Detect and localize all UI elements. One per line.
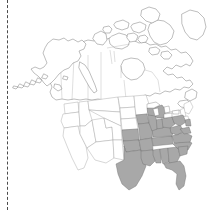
state-oregon <box>61 112 80 128</box>
state-north-dakota <box>118 96 135 108</box>
state-south-dakota <box>120 107 136 119</box>
left-dashed-rule <box>7 0 8 210</box>
state-new-jersey <box>185 119 191 126</box>
state-iowa <box>136 114 149 124</box>
lake-erie <box>164 113 172 118</box>
state-minnesota <box>134 95 149 115</box>
lake-huron <box>164 106 170 113</box>
north-america-map <box>0 0 214 210</box>
state-kansas <box>122 129 139 141</box>
state-new-mexico <box>113 140 124 160</box>
distribution-map-figure: present absent North America <box>0 0 214 210</box>
state-arkansas <box>139 138 153 151</box>
state-tennessee <box>152 136 173 146</box>
state-nebraska <box>121 118 138 130</box>
